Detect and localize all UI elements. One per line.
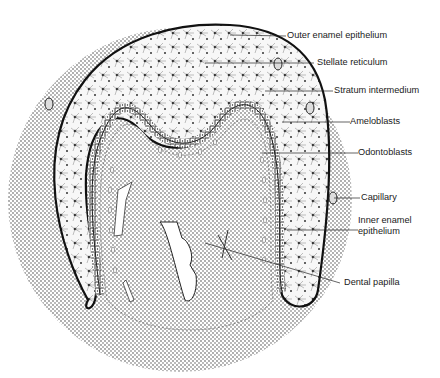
label-stellate-reticulum: Stellate reticulum	[317, 57, 387, 68]
label-stratum-intermedium: Stratum intermedium	[334, 85, 419, 96]
label-odontoblasts: Odontoblasts	[358, 147, 412, 158]
capillary-shape	[274, 58, 282, 70]
label-dental-papilla: Dental papilla	[344, 277, 400, 288]
capillary-shape	[45, 98, 53, 110]
label-capillary: Capillary	[361, 192, 397, 203]
label-inner-enamel-epithelium: Inner enamel epithelium	[358, 215, 412, 237]
label-ameloblasts: Ameloblasts	[350, 116, 400, 127]
label-outer-enamel-epithelium: Outer enamel epithelium	[287, 30, 387, 41]
diagram-canvas: Outer enamel epithelium Stellate reticul…	[0, 0, 440, 378]
capillary-shape	[306, 102, 314, 114]
